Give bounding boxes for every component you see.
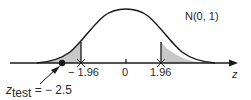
test-statistic-dot: [59, 60, 65, 66]
tick-label-pos-1-96: 1.96: [150, 67, 171, 78]
z-test-annotation: ztest = − 2.5: [6, 84, 72, 99]
distribution-label: N(0, 1): [185, 11, 219, 22]
axis-variable-label: z: [232, 69, 238, 80]
z-test-value: = − 2.5: [31, 83, 72, 97]
left-tail-shade: [37, 42, 81, 63]
z-test-subscript: test: [12, 86, 31, 100]
axis-arrowhead: [229, 60, 238, 67]
tick-label-zero: 0: [122, 67, 128, 78]
tick-label-neg-1-96: − 1.96: [68, 67, 99, 78]
